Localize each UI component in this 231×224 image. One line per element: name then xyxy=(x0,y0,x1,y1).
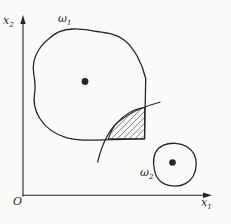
region-omega1-label-base: ω xyxy=(58,12,67,25)
region-omega2-label-subscript: 2 xyxy=(149,173,153,181)
region-omega2-label-base: ω xyxy=(140,166,149,179)
region-omega1-label-subscript: 1 xyxy=(67,19,71,27)
y-axis-arrowhead xyxy=(20,15,25,24)
overlap-hatched-region xyxy=(108,108,144,139)
omega1-center-dot xyxy=(82,78,89,85)
origin-label: O xyxy=(13,196,22,208)
y-axis-label-subscript: 2 xyxy=(9,21,13,29)
x-axis-label: x1 xyxy=(201,197,212,209)
x-axis-label-subscript: 1 xyxy=(207,203,211,211)
region-omega2-label: ω2 xyxy=(140,167,153,179)
omega2-center-dot xyxy=(169,159,176,166)
diagram-canvas xyxy=(0,0,231,224)
y-axis-label: x2 xyxy=(3,15,14,27)
region-omega1-label: ω1 xyxy=(58,13,71,25)
feature-space-diagram: x2 ω1 ω2 O x1 xyxy=(0,0,231,224)
